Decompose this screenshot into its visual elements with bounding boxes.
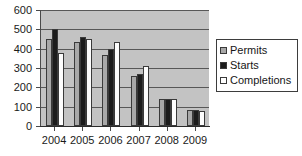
y-tick-mark	[36, 68, 40, 69]
legend-swatch-icon	[220, 62, 227, 69]
chart-legend: PermitsStartsCompletions	[216, 39, 298, 92]
legend-swatch-icon	[220, 47, 227, 54]
y-tick-mark	[36, 126, 40, 127]
y-tick-mark	[36, 29, 40, 30]
y-tick-mark	[36, 87, 40, 88]
legend-item-completions[interactable]: Completions	[220, 73, 295, 88]
legend-swatch-icon	[220, 77, 227, 84]
legend-label: Permits	[230, 45, 267, 56]
x-axis-line	[40, 126, 210, 127]
y-axis: 6005004003002001000	[0, 0, 36, 156]
bar-group	[126, 10, 154, 126]
y-tick-label: 100	[0, 101, 32, 112]
legend-label: Starts	[230, 60, 259, 71]
plot-area	[40, 10, 209, 126]
x-tick-mark	[54, 127, 55, 131]
legend-item-permits[interactable]: Permits	[220, 43, 295, 58]
x-tick-label: 2009	[175, 134, 215, 146]
y-tick-label: 200	[0, 82, 32, 93]
y-tick-label: 600	[0, 5, 32, 16]
y-tick-label: 300	[0, 63, 32, 74]
bar-completions-2009	[199, 111, 205, 126]
legend-item-starts[interactable]: Starts	[220, 58, 295, 73]
x-tick-mark	[110, 127, 111, 131]
bar-group	[41, 10, 69, 126]
y-tick-mark	[36, 10, 40, 11]
bar-group	[69, 10, 97, 126]
y-tick-label: 500	[0, 24, 32, 35]
x-tick-mark	[82, 127, 83, 131]
bar-chart-figure: 6005004003002001000 20042005200620072008…	[0, 0, 302, 156]
bar-group	[97, 10, 125, 126]
bar-completions-2006	[114, 42, 120, 126]
x-tick-mark	[195, 127, 196, 131]
y-tick-mark	[36, 49, 40, 50]
bar-completions-2008	[171, 99, 177, 126]
y-tick-mark	[36, 107, 40, 108]
bar-completions-2007	[143, 66, 149, 126]
legend-label: Completions	[230, 75, 291, 86]
bar-group	[154, 10, 182, 126]
y-tick-label: 400	[0, 43, 32, 54]
bar-group	[182, 10, 210, 126]
bar-completions-2004	[58, 53, 64, 126]
y-tick-label: 0	[0, 121, 32, 132]
x-tick-mark	[139, 127, 140, 131]
bar-completions-2005	[86, 39, 92, 126]
x-tick-mark	[167, 127, 168, 131]
